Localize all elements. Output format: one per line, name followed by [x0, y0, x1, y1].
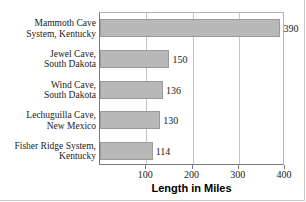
- bar[interactable]: [100, 50, 169, 68]
- bar-row: 114Fisher Ridge System,Kentucky: [100, 136, 283, 166]
- plot-area: 390Mammoth CaveSystem, Kentucky150Jewel …: [99, 12, 284, 165]
- chart-title: [60, 0, 250, 1]
- x-axis-title: Length in Miles: [99, 182, 284, 194]
- category-label: Fisher Ridge System,Kentucky: [0, 140, 100, 161]
- category-label: Jewel Cave,South Dakota: [0, 48, 100, 69]
- bar-value-label: 130: [160, 115, 178, 126]
- category-label: Lechuguilla Cave,New Mexico: [0, 110, 100, 131]
- bar-value-label: 136: [163, 84, 181, 95]
- bar-row: 150Jewel Cave,South Dakota: [100, 44, 283, 74]
- bar[interactable]: [100, 111, 160, 129]
- bar-row: 390Mammoth CaveSystem, Kentucky: [100, 13, 283, 43]
- bar-row: 130Lechuguilla Cave,New Mexico: [100, 105, 283, 135]
- bar-value-label: 114: [153, 145, 171, 156]
- bar[interactable]: [100, 19, 280, 37]
- category-label: Mammoth CaveSystem, Kentucky: [0, 18, 100, 39]
- bar-value-label: 150: [169, 53, 187, 64]
- category-label: Wind Cave,South Dakota: [0, 79, 100, 100]
- bar-chart-figure: 390Mammoth CaveSystem, Kentucky150Jewel …: [0, 0, 306, 202]
- x-tick-label: 200: [184, 169, 199, 180]
- x-tick-label: 400: [277, 169, 292, 180]
- bar-value-label: 390: [280, 23, 298, 34]
- bar-row: 136Wind Cave,South Dakota: [100, 75, 283, 105]
- x-tick-label: 100: [138, 169, 153, 180]
- bar[interactable]: [100, 142, 153, 160]
- bar[interactable]: [100, 81, 163, 99]
- x-tick-label: 300: [230, 169, 245, 180]
